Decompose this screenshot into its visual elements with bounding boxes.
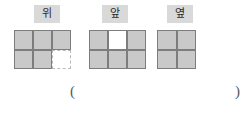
- grid-cell: [33, 50, 52, 70]
- grid-cell: [177, 30, 197, 50]
- view-label-side: 옆: [167, 5, 193, 23]
- grid-cell: [108, 50, 127, 70]
- answer-open-paren: (: [70, 84, 75, 99]
- grid-cell: [14, 30, 33, 50]
- worksheet-figure: 위 앞 옆 ( ): [0, 0, 246, 114]
- view-label-front: 앞: [102, 5, 128, 23]
- view-label-top: 위: [34, 5, 60, 23]
- grid-cell: [89, 30, 108, 50]
- grid-cell: [177, 50, 197, 70]
- grid-cell: [157, 30, 177, 50]
- grid-cell: [127, 30, 146, 50]
- answer-close-paren: ): [235, 84, 240, 99]
- grid-cell: [127, 50, 146, 70]
- grid-side-view: [157, 30, 196, 69]
- grid-cell: [52, 30, 71, 50]
- grid-cell: [89, 50, 108, 70]
- answer-input-area[interactable]: [78, 84, 233, 100]
- grid-cell: [157, 50, 177, 70]
- grid-top-view: [14, 30, 71, 69]
- grid-cell: [33, 30, 52, 50]
- grid-front-view: [89, 30, 146, 69]
- grid-cell-empty: [108, 30, 127, 50]
- grid-cell: [14, 50, 33, 70]
- grid-cell-empty: [52, 50, 71, 70]
